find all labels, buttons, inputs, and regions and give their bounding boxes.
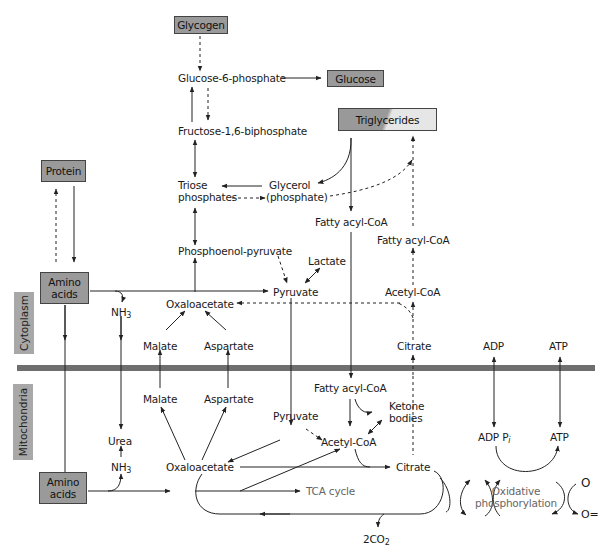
mitochondria-label: Mitochondria [13,384,33,460]
urea-label: Urea [108,435,132,447]
aspartate-mitochondria-label: Aspartate [204,393,253,405]
fructose-bisphosphate-label: Fructose-1,6-biphosphate [178,125,307,137]
pyruvate-cytoplasm-label: Pyruvate [273,286,318,298]
atp-mitochondria-label: ATP [550,431,569,443]
cytoplasm-label: Cytoplasm [14,292,34,354]
adp-pi-label: ADP Pi [478,431,510,443]
oxaloacetate-mitochondria-label: Oxaloacetate [166,461,234,473]
oxaloacetate-cytoplasm-label: Oxaloacetate [166,298,234,310]
protein-box: Protein [41,160,86,182]
citrate-mitochondria-label: Citrate [396,461,430,473]
acetyl-coa-mitochondria-label: Acetyl-CoA [321,436,376,448]
amino-acids-cytoplasm-box: Aminoacids [40,272,89,304]
adp-cytoplasm-label: ADP [483,340,504,352]
lactate-label: Lactate [308,255,346,267]
oxygen-label: O [581,477,590,489]
acetyl-coa-cytoplasm-label: Acetyl-CoA [385,286,440,298]
triglycerides-box: Triglycerides [338,108,437,131]
phosphoenolpyruvate-label: Phosphoenol-pyruvate [178,245,292,257]
oxide-ion-label: O= [581,509,598,521]
atp-cytoplasm-label: ATP [549,340,568,352]
triose-phosphates-label: Triosephosphates [178,179,237,203]
oxidative-phosphorylation-label: Oxidativephosphorylation [475,485,557,509]
ketone-bodies-label: Ketonebodies [389,400,424,424]
glucose-box: Glucose [327,70,384,87]
citrate-cytoplasm-label: Citrate [397,340,431,352]
fatty-acyl-coa-mitochondria-label: Fatty acyl-CoA [314,382,387,394]
metabolism-diagram-arrows [0,0,611,555]
fatty-acyl-coa-cytoplasm-label: Fatty acyl-CoA [315,216,388,228]
fatty-acyl-coa-cytoplasm-2-label: Fatty acyl-CoA [377,234,450,246]
pyruvate-mitochondria-label: Pyruvate [273,410,318,422]
co2-label: 2CO2 [363,533,390,545]
nh3-mitochondria-label: NH3 [111,461,131,473]
tca-cycle-label: TCA cycle [306,485,355,497]
malate-cytoplasm-label: Malate [143,340,177,352]
aspartate-cytoplasm-label: Aspartate [204,340,253,352]
malate-mitochondria-label: Malate [143,393,177,405]
amino-acids-mitochondria-box: Aminoacids [39,472,87,504]
glucose-6-phosphate-label: Glucose-6-phosphate [178,72,286,84]
mitochondrial-membrane [17,365,595,371]
glycerol-phosphate-label: Glycerol(phosphate) [266,179,328,203]
nh3-cytoplasm-label: NH3 [111,306,131,318]
glycogen-box: Glycogen [174,16,228,34]
